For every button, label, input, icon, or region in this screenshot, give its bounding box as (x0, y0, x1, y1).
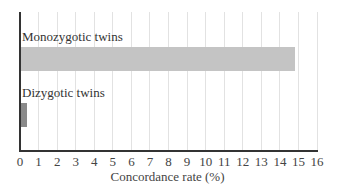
gridline (224, 12, 225, 150)
y-axis (19, 12, 21, 151)
bar-label: Dizygotic twins (22, 85, 105, 101)
x-tick-label: 11 (218, 154, 231, 170)
gridline (149, 12, 150, 150)
x-tick-label: 2 (54, 154, 61, 170)
x-tick-label: 1 (35, 154, 42, 170)
x-tick-label: 0 (17, 154, 24, 170)
x-tick-label: 5 (110, 154, 117, 170)
gridline (298, 12, 299, 150)
plot-area: Monozygotic twinsDizygotic twins (20, 12, 317, 150)
x-tick-label: 8 (165, 154, 172, 170)
x-tick-label: 7 (147, 154, 154, 170)
gridline (168, 12, 169, 150)
gridline (242, 12, 243, 150)
x-tick-label: 9 (184, 154, 191, 170)
gridline (187, 12, 188, 150)
x-tick-label: 16 (311, 154, 324, 170)
x-tick-label: 3 (72, 154, 79, 170)
x-tick-label: 4 (91, 154, 98, 170)
x-tick-label: 6 (128, 154, 135, 170)
bar-dizygotic (20, 103, 27, 127)
gridline (317, 12, 318, 150)
bar-label: Monozygotic twins (22, 29, 123, 45)
gridline (279, 12, 280, 150)
gridline (261, 12, 262, 150)
x-axis (19, 150, 318, 152)
x-axis-title-text: Concordance rate (%) (110, 169, 224, 184)
bar-monozygotic (20, 47, 295, 71)
gridline (205, 12, 206, 150)
x-tick-label: 12 (236, 154, 249, 170)
x-tick-label: 13 (255, 154, 268, 170)
gridline (131, 12, 132, 150)
x-tick-label: 14 (273, 154, 286, 170)
x-axis-title: Concordance rate (%) (0, 169, 337, 185)
x-tick-label: 10 (199, 154, 212, 170)
x-tick-label: 15 (292, 154, 305, 170)
